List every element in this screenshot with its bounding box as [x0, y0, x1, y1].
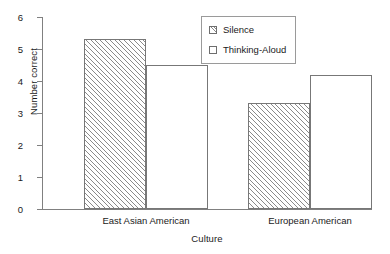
- y-axis-tick: [37, 49, 42, 50]
- y-axis-tick: [37, 17, 42, 18]
- legend-item-silence: Silence: [209, 23, 286, 37]
- legend-swatch-hatched-icon: [209, 26, 217, 34]
- chart-legend: Silence Thinking-Aloud: [201, 16, 296, 64]
- legend-swatch-white-icon: [209, 46, 217, 54]
- bar: [146, 65, 208, 209]
- y-axis-tick: [37, 145, 42, 146]
- y-axis-line: [42, 17, 43, 209]
- y-axis-tick-label: 4: [0, 77, 23, 87]
- y-axis-tick-label: 5: [0, 45, 23, 55]
- bar: [248, 103, 310, 209]
- y-axis-tick-label: 2: [0, 141, 23, 151]
- y-axis-tick: [37, 81, 42, 82]
- y-axis-tick-label: 6: [0, 13, 23, 23]
- y-axis-tick-label: 3: [0, 109, 23, 119]
- y-axis-tick: [37, 177, 42, 178]
- legend-label: Thinking-Aloud: [223, 45, 286, 55]
- bar-chart: Number correct 0123456 East Asian Americ…: [0, 0, 390, 254]
- x-axis-category-label: East Asian American: [102, 215, 189, 226]
- bar: [84, 39, 146, 209]
- y-axis-tick: [37, 113, 42, 114]
- bar: [310, 75, 372, 209]
- y-axis-tick-label: 0: [0, 205, 23, 215]
- y-axis-tick-label: 1: [0, 173, 23, 183]
- legend-label: Silence: [223, 25, 254, 35]
- legend-item-thinking-aloud: Thinking-Aloud: [209, 43, 286, 57]
- x-axis-category-label: European American: [268, 215, 351, 226]
- x-axis-line: [42, 209, 372, 210]
- x-axis-title: Culture: [42, 233, 372, 244]
- y-axis-tick: [37, 209, 42, 210]
